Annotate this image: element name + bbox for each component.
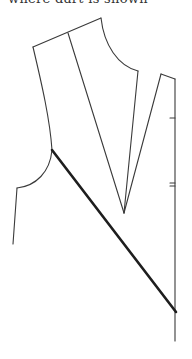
dart-leg-right xyxy=(124,71,138,213)
center-front-top-edge xyxy=(161,74,175,79)
side-seam xyxy=(13,188,17,244)
armhole-curve xyxy=(17,150,52,188)
bodice-pattern-diagram xyxy=(0,0,192,359)
dart-leg-outer xyxy=(124,74,161,213)
neckline-curve xyxy=(101,18,138,71)
dart-leg-left xyxy=(68,33,124,213)
shoulder-line xyxy=(33,18,101,47)
slash-line xyxy=(52,150,176,312)
armhole-edge xyxy=(33,47,52,150)
